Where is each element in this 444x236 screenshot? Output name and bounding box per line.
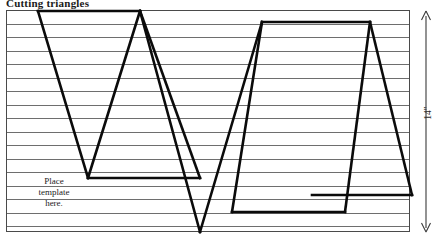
dimension-label: 14" [423, 106, 433, 119]
template-note-line-2: template [18, 187, 90, 198]
dimension-arrow [422, 11, 431, 232]
template-placement-note: Place template here. [18, 176, 90, 209]
page-title: Cutting triangles [6, 0, 186, 9]
template-note-line-1: Place [18, 176, 90, 187]
template-note-line-3: here. [18, 198, 90, 209]
